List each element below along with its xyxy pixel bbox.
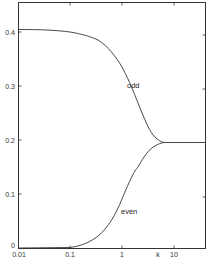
odd-curve <box>19 30 206 143</box>
x-tick-label: 1 <box>120 251 124 258</box>
chart-canvas: 0.4 0.3 0.2 0.1 0 0.01 0.1 1 10 k odd ev… <box>0 0 210 264</box>
y-tick-label: 0 <box>11 242 15 249</box>
y-tick-label: 0.1 <box>5 191 15 198</box>
y-tick-label: 0.4 <box>5 29 15 36</box>
x-axis-label: k <box>156 251 160 258</box>
x-tick-label: 0.01 <box>12 251 26 258</box>
y-tick-label: 0.2 <box>5 137 15 144</box>
plot-frame <box>19 3 206 249</box>
y-tick-label: 0.3 <box>5 83 15 90</box>
even-curve-label: even <box>121 207 137 216</box>
even-curve <box>19 143 165 249</box>
x-tick-label: 0.1 <box>65 251 75 258</box>
x-tick-label: 10 <box>170 251 178 258</box>
odd-curve-label: odd <box>127 81 140 90</box>
